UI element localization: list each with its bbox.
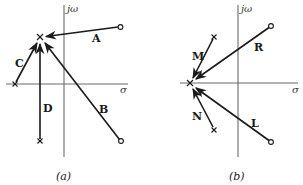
imag-axis-label-a: jω — [65, 3, 78, 14]
branch-label-n: N — [192, 110, 202, 123]
root-locus-figure: jω σ A B C — [0, 0, 303, 185]
caption-b: (b) — [229, 170, 245, 183]
branch-n: N — [192, 89, 217, 133]
zero-marker-b — [119, 139, 124, 144]
real-axis-label-a: σ — [120, 84, 128, 95]
branch-label-d: D — [43, 102, 53, 115]
branch-d: D — [38, 44, 54, 144]
branch-label-b: B — [99, 103, 108, 116]
panel-a: jω σ A B C — [6, 3, 128, 183]
branch-label-c: C — [15, 57, 24, 70]
branch-m: M — [192, 35, 217, 79]
zero-marker-a — [118, 25, 123, 30]
caption-a: (a) — [56, 170, 71, 183]
panel-b: jω σ M R N — [180, 3, 300, 183]
branch-c: C — [13, 43, 38, 87]
pole-marker-m — [212, 35, 217, 40]
target-pole-a — [37, 34, 43, 40]
branch-label-l: L — [251, 117, 259, 130]
imag-axis-label-b: jω — [239, 3, 252, 14]
branch-label-m: M — [192, 50, 204, 63]
zero-marker-r — [269, 24, 274, 29]
real-axis-label-b: σ — [292, 84, 300, 95]
pole-marker-d — [38, 139, 43, 144]
branch-label-r: R — [254, 41, 264, 54]
branch-label-a: A — [91, 32, 101, 45]
branch-a: A — [46, 25, 123, 45]
branch-r: R — [196, 24, 273, 79]
branch-b: B — [45, 43, 123, 143]
zero-marker-l — [269, 140, 274, 145]
pole-marker-n — [212, 128, 217, 133]
